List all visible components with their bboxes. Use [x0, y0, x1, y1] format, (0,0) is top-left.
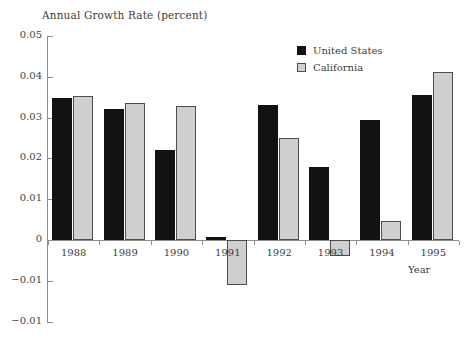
chart-title: Annual Growth Rate (percent) — [42, 9, 207, 21]
x-axis-label-1993: 1993 — [308, 247, 354, 258]
x-axis-label-1989: 1989 — [102, 247, 148, 258]
bar-1995-ca — [433, 72, 453, 240]
y-axis-tick-label: −0.01 — [2, 274, 42, 285]
bar-1988-ca — [73, 96, 93, 240]
y-axis-tick-label: 0 — [2, 233, 42, 244]
x-axis-label-1994: 1994 — [359, 247, 405, 258]
y-axis-tick-label: 0.01 — [2, 192, 42, 203]
bar-1989-us — [104, 109, 124, 240]
legend-label: United States — [313, 45, 382, 56]
bar-1989-ca — [125, 103, 145, 240]
y-axis-tick — [48, 77, 53, 78]
bar-1991-us — [206, 237, 226, 240]
bar-1990-ca — [176, 106, 196, 240]
x-axis-tick — [408, 241, 409, 245]
bar-1992-us — [258, 105, 278, 240]
y-axis-tick-label: 0.04 — [2, 70, 42, 81]
legend-item-california: California — [297, 60, 382, 75]
x-axis-tick — [99, 241, 100, 245]
y-axis-tick-label: 0.02 — [2, 151, 42, 162]
bar-chart-figure: Annual Growth Rate (percent) 0.050.040.0… — [0, 0, 474, 342]
x-axis-label-1991: 1991 — [205, 247, 251, 258]
bar-1990-us — [155, 150, 175, 240]
x-axis-zero-line — [47, 240, 459, 241]
x-axis-title: Year — [408, 264, 430, 275]
bar-1992-ca — [279, 138, 299, 240]
y-axis-tick-label: −0.01 — [2, 315, 42, 326]
bar-1994-ca — [381, 221, 401, 240]
x-axis-tick — [202, 241, 203, 245]
x-axis-tick — [305, 241, 306, 245]
x-axis-label-1995: 1995 — [410, 247, 456, 258]
bar-1993-us — [309, 167, 329, 240]
legend-item-united-states: United States — [297, 43, 382, 58]
x-axis-tick — [459, 241, 460, 245]
bar-1994-us — [360, 120, 380, 240]
bar-1988-us — [52, 98, 72, 240]
x-axis-tick — [254, 241, 255, 245]
x-axis-tick — [48, 241, 49, 245]
x-axis-label-1992: 1992 — [256, 247, 302, 258]
y-axis-tick-label: 0.03 — [2, 111, 42, 122]
chart-legend: United StatesCalifornia — [297, 43, 382, 77]
bar-1995-us — [412, 95, 432, 240]
y-axis-tick-label: 0.05 — [2, 29, 42, 40]
y-axis-tick — [48, 281, 53, 282]
black-square-swatch — [297, 46, 306, 55]
gray-square-swatch — [297, 63, 306, 72]
x-axis-tick — [151, 241, 152, 245]
legend-label: California — [313, 62, 363, 73]
y-axis-tick — [48, 322, 53, 323]
x-axis-label-1990: 1990 — [153, 247, 199, 258]
x-axis-tick — [356, 241, 357, 245]
x-axis-label-1988: 1988 — [51, 247, 97, 258]
y-axis-tick — [48, 36, 53, 37]
